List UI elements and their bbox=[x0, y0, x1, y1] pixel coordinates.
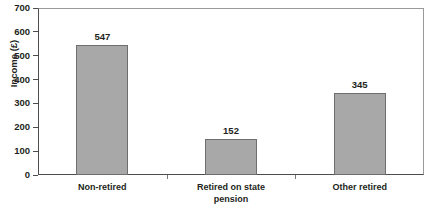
x-category-label: Non-retired bbox=[38, 182, 166, 194]
bar-value-label: 152 bbox=[201, 125, 261, 136]
y-tick-label: 600 bbox=[0, 25, 30, 39]
x-tick-mark bbox=[167, 175, 168, 179]
y-tick-label: 300 bbox=[0, 96, 30, 110]
bar-value-label: 547 bbox=[72, 31, 132, 42]
bar bbox=[334, 93, 386, 175]
x-tick-mark bbox=[295, 175, 296, 179]
x-category-line: Other retired bbox=[296, 182, 424, 194]
y-tick-label: 200 bbox=[0, 120, 30, 134]
x-category-label: Other retired bbox=[296, 182, 424, 194]
y-tick-label: 400 bbox=[0, 73, 30, 87]
x-category-line: pension bbox=[167, 194, 295, 206]
x-category-label: Retired on statepension bbox=[167, 182, 295, 205]
y-tick-label: 700 bbox=[0, 1, 30, 15]
y-tick-label: 0 bbox=[0, 168, 30, 182]
bar bbox=[76, 45, 128, 175]
x-category-line: Non-retired bbox=[38, 182, 166, 194]
x-category-line: Retired on state bbox=[167, 182, 295, 194]
bar-chart: Income (£) 7006005004003002001000 547152… bbox=[0, 0, 436, 217]
bar-value-label: 345 bbox=[330, 79, 390, 90]
bar bbox=[205, 139, 257, 175]
y-tick-label: 100 bbox=[0, 144, 30, 158]
y-tick-label: 500 bbox=[0, 49, 30, 63]
